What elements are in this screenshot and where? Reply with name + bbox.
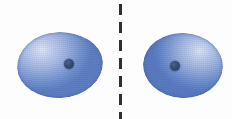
orbital-lobe-right	[141, 30, 224, 99]
orbital-mirror-plane-figure	[0, 0, 232, 119]
nucleus-dot-right	[170, 61, 180, 71]
orbital-lobe-right-fill	[141, 30, 224, 99]
nucleus-dot-left	[64, 59, 74, 69]
orbital-lobe-left-fill	[15, 30, 104, 100]
orbital-lobe-left	[15, 30, 104, 100]
mirror-plane-dashed-line	[119, 4, 122, 119]
